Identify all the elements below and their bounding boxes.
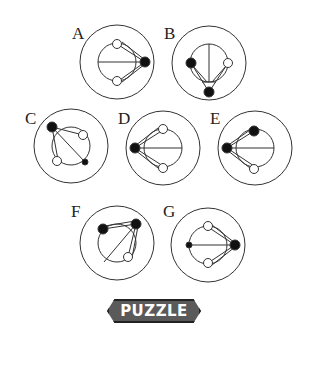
option-g-figure[interactable] bbox=[171, 208, 245, 282]
option-f-figure[interactable] bbox=[80, 206, 154, 280]
option-e-figure[interactable] bbox=[218, 111, 292, 185]
badge-number: 21 bbox=[103, 326, 205, 351]
option-e-label: E bbox=[210, 110, 220, 127]
option-a-label: A bbox=[72, 25, 84, 42]
puzzle-badge: PUZZLE 21 bbox=[103, 297, 205, 363]
option-d-figure[interactable] bbox=[126, 111, 200, 185]
option-c-label: C bbox=[25, 110, 36, 127]
option-a-figure[interactable] bbox=[80, 25, 154, 99]
option-f-label: F bbox=[71, 203, 80, 220]
option-b-label: B bbox=[164, 25, 175, 42]
badge-label: PUZZLE bbox=[103, 302, 205, 320]
option-c-figure[interactable] bbox=[34, 109, 108, 183]
option-b-figure[interactable] bbox=[172, 26, 246, 100]
option-g-label: G bbox=[163, 203, 175, 220]
option-d-label: D bbox=[118, 110, 130, 127]
